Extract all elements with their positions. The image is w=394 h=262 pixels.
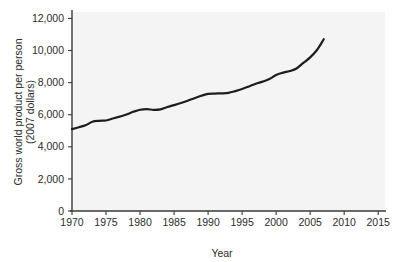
y-tick-label: 8,000 xyxy=(38,76,64,88)
y-axis-title-line1: Gross world product per person xyxy=(12,38,24,185)
x-tick-label: 1970 xyxy=(60,216,84,228)
chart-figure: 02,0004,0006,0008,00010,00012,000 197019… xyxy=(0,0,394,262)
x-tick-label: 1980 xyxy=(128,216,152,228)
y-tick-label: 0 xyxy=(58,205,64,217)
y-tick-label: 4,000 xyxy=(38,140,64,152)
y-axis-title-line2: (2007 dollars) xyxy=(24,80,36,144)
x-tick-label: 2000 xyxy=(264,216,288,228)
x-axis-tick-labels: 1970197519801985199019952000200520102015 xyxy=(60,216,390,228)
x-tick-label: 1985 xyxy=(162,216,186,228)
y-tick-label: 2,000 xyxy=(38,173,64,185)
x-tick-label: 1995 xyxy=(230,216,254,228)
x-tick-label: 1990 xyxy=(196,216,220,228)
x-tick-label: 1975 xyxy=(94,216,118,228)
y-tick-label: 12,000 xyxy=(32,12,64,24)
y-tick-label: 6,000 xyxy=(38,108,64,120)
y-tick-label: 10,000 xyxy=(32,44,64,56)
plot-background xyxy=(72,12,385,211)
x-tick-label: 2015 xyxy=(367,216,391,228)
x-tick-label: 2010 xyxy=(332,216,356,228)
x-tick-label: 2005 xyxy=(298,216,322,228)
line-chart: 02,0004,0006,0008,00010,00012,000 197019… xyxy=(0,0,394,262)
y-axis-tick-labels: 02,0004,0006,0008,00010,00012,000 xyxy=(32,12,64,217)
x-axis-title: Year xyxy=(211,247,233,259)
